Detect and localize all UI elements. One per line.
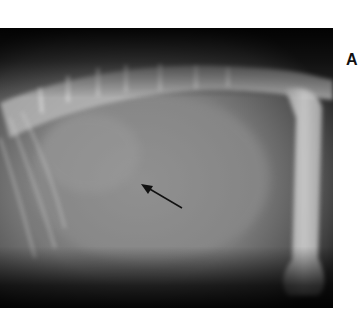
panel-label: A bbox=[346, 52, 358, 68]
radiograph-image bbox=[0, 28, 333, 308]
